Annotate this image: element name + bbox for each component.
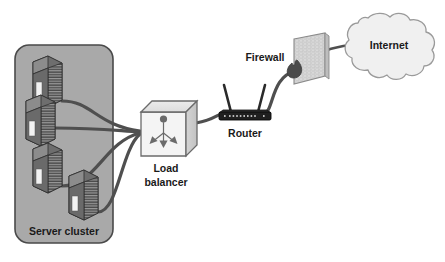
server-icon-2 xyxy=(26,95,55,146)
firewall-label: Firewall xyxy=(245,51,284,63)
load-balancer-icon xyxy=(141,101,197,156)
server-cluster-label: Server cluster xyxy=(29,225,99,237)
load-balancer-label-line1: Load xyxy=(153,162,178,174)
load-balancer-label-line2: balancer xyxy=(144,176,187,188)
server-icon-3 xyxy=(33,143,62,193)
router-antenna-right xyxy=(258,85,265,112)
network-diagram-canvas: Server cluster Loa xyxy=(0,0,445,262)
internet-label: Internet xyxy=(370,39,409,51)
router-label: Router xyxy=(228,127,262,139)
router-icon xyxy=(219,85,271,120)
network-diagram: Server cluster Loa xyxy=(0,0,445,262)
firewall-icon xyxy=(287,33,329,84)
router-antenna-left xyxy=(224,85,231,112)
server-icon-4 xyxy=(69,170,98,220)
